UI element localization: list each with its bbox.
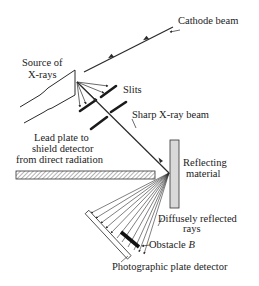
lead-plate xyxy=(16,171,155,179)
lead-label-line1: Lead plate to xyxy=(34,132,89,143)
obstacle-label: Obstacle B xyxy=(149,239,195,250)
source-label-line2: X-rays xyxy=(28,69,57,80)
sharp-beam-label: Sharp X-ray beam xyxy=(132,109,209,120)
lead-label-line2: shield detector xyxy=(32,143,94,154)
slits-label: Slits xyxy=(123,84,142,95)
reflecting-label-line1: Reflecting xyxy=(183,157,227,168)
source-label-line1: Source of xyxy=(22,57,63,68)
cathode-beam-label: Cathode beam xyxy=(178,15,238,26)
reflecting-material xyxy=(170,140,179,208)
detector-label: Photographic plate detector xyxy=(112,261,228,272)
xray-diagram: Cathode beam Source of X-rays Slits Shar… xyxy=(0,0,259,286)
beam-arrow-icon xyxy=(159,158,164,164)
cathode-beam xyxy=(84,27,180,72)
diffuse-label-line2: rays xyxy=(183,223,201,234)
reflecting-label-line2: material xyxy=(186,168,220,179)
lead-label-line3: from direct radiation xyxy=(16,154,104,165)
